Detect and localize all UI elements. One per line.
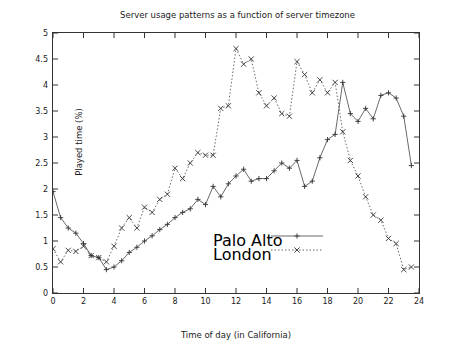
legend-item-label: London [213,245,272,264]
y-tick-label: 1.5 [35,211,48,220]
x-tick-label: 6 [142,297,147,306]
x-axis-label: Time of day (in California) [52,330,420,340]
x-tick-label: 10 [200,297,210,306]
x-tick-label: 24 [414,297,424,306]
x-tick-label: 12 [231,297,241,306]
legend-item-sample [271,230,327,242]
x-tick-label: 0 [50,297,55,306]
chart-figure: Server usage patterns as a function of s… [0,0,475,359]
y-tick-label: 2.5 [35,159,48,168]
y-tick-label: 3.5 [35,107,48,116]
x-tick-label: 20 [353,297,363,306]
y-tick-label: 3 [43,133,48,142]
y-tick-label: 2 [43,185,48,194]
y-tick-label: 4.5 [35,55,48,64]
y-tick-label: 4 [43,81,48,90]
y-tick-label: 0.5 [35,263,48,272]
y-axis-label: Played time (%) [74,72,84,212]
x-tick-label: 2 [81,297,86,306]
y-tick-label: 0 [43,289,48,298]
x-tick-label: 8 [172,297,177,306]
x-tick-label: 16 [292,297,302,306]
plot-area: Played time (%) 00.511.522.533.544.55 02… [52,32,420,294]
legend-item-sample [271,244,327,256]
y-tick-label: 1 [43,237,48,246]
x-tick-label: 18 [322,297,332,306]
y-tick-label: 5 [43,29,48,38]
x-tick-label: 14 [261,297,271,306]
x-tick-label: 22 [383,297,393,306]
chart-title: Server usage patterns as a function of s… [0,10,475,20]
x-tick-label: 4 [111,297,116,306]
